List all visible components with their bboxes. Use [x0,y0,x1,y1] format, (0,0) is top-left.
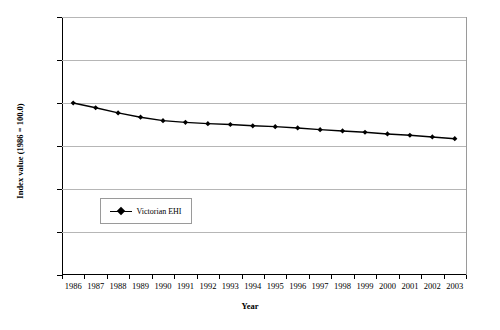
y-axis-tick-mark [57,232,62,233]
x-axis-tick-mark [84,275,85,279]
x-axis-tick-label: 2001 [401,282,418,291]
x-axis-tick-label: 1987 [87,282,104,291]
x-axis-tick-label: 1989 [132,282,149,291]
legend: Victorian EHI [100,198,192,224]
y-axis-tick-mark [57,189,62,190]
x-axis-tick-mark [444,275,445,279]
gridline [62,17,466,18]
x-axis-tick-label: 1988 [110,282,127,291]
y-axis-title: Index value (1986 = 100.0) [15,61,25,241]
x-axis-tick-label: 1992 [199,282,216,291]
x-axis-tick-mark [331,275,332,279]
x-axis-tick-mark [466,275,467,279]
legend-label-victorian-ehi: Victorian EHI [136,207,181,216]
x-axis-tick-label: 1994 [244,282,261,291]
y-axis-tick-mark [57,17,62,18]
x-axis-tick-mark [242,275,243,279]
x-axis-tick-mark [286,275,287,279]
legend-marker-icon [110,206,132,216]
x-axis-tick-label: 1990 [155,282,172,291]
x-axis-tick-mark [264,275,265,279]
chart-container: 102.0101.0100.099.098.097.096.0 19861987… [0,0,500,330]
x-axis-tick-mark [309,275,310,279]
x-axis-tick-mark [197,275,198,279]
x-axis-title: Year [0,301,500,311]
gridline [62,60,466,61]
x-axis-tick-label: 2000 [379,282,396,291]
x-axis-tick-mark [376,275,377,279]
x-axis-tick-label: 1998 [334,282,351,291]
x-axis-tick-label: 2003 [446,282,463,291]
x-axis-tick-label: 1997 [312,282,329,291]
x-axis-tick-label: 1986 [65,282,82,291]
y-axis-tick-mark [57,146,62,147]
gridline [62,232,466,233]
y-axis-tick-mark [57,103,62,104]
x-axis-tick-mark [174,275,175,279]
x-axis-tick-label: 2002 [424,282,441,291]
x-axis-tick-label: 1996 [289,282,306,291]
x-axis-tick-mark [129,275,130,279]
x-axis-tick-label: 1993 [222,282,239,291]
x-axis-tick-label: 1991 [177,282,194,291]
x-axis-tick-mark [399,275,400,279]
gridline [62,146,466,147]
x-axis-tick-mark [354,275,355,279]
x-axis-tick-label: 1995 [267,282,284,291]
y-axis-tick-mark [57,60,62,61]
x-axis-tick-mark [421,275,422,279]
x-axis-tick-label: 1999 [357,282,374,291]
x-axis-tick-mark [107,275,108,279]
x-axis-tick-mark [152,275,153,279]
plot-frame-right [466,17,467,275]
x-axis-tick-mark [219,275,220,279]
x-axis-tick-mark [62,275,63,279]
gridline [62,189,466,190]
gridline [62,103,466,104]
